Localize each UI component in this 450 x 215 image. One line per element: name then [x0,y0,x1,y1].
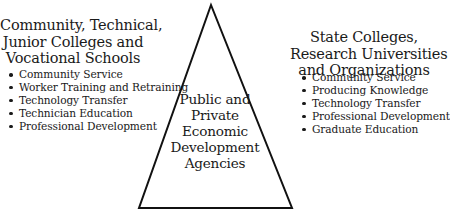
center-label-line: Development [165,139,265,155]
center-label-line: Economic [165,123,265,139]
list-item: Worker Training and Retraining [7,81,188,94]
list-item: Graduate Education [300,123,450,136]
right-group-list: Community Service Producing Knowledge Te… [300,71,450,136]
list-item: Community Service [7,68,188,81]
right-heading-line: State Colleges, [290,29,438,46]
center-label-line: Private [165,107,265,123]
list-item: Community Service [300,71,450,84]
list-item: Professional Development [300,110,450,123]
right-heading-line: Research Universities [290,46,438,63]
center-label-line: Public and [165,91,265,107]
list-item: Technology Transfer [7,94,188,107]
left-heading-line: Junior Colleges and [0,34,146,51]
list-item: Producing Knowledge [300,84,450,97]
left-heading-line: Vocational Schools [0,50,146,67]
center-agencies-label: Public and Private Economic Development … [165,91,265,171]
list-item: Technician Education [7,107,188,120]
left-group-list: Community Service Worker Training and Re… [7,68,188,133]
left-group-heading: Community, Technical, Junior Colleges an… [0,17,146,67]
list-item: Technology Transfer [300,97,450,110]
list-item: Professional Development [7,120,188,133]
left-heading-line: Community, Technical, [0,17,146,34]
center-label-line: Agencies [165,155,265,171]
